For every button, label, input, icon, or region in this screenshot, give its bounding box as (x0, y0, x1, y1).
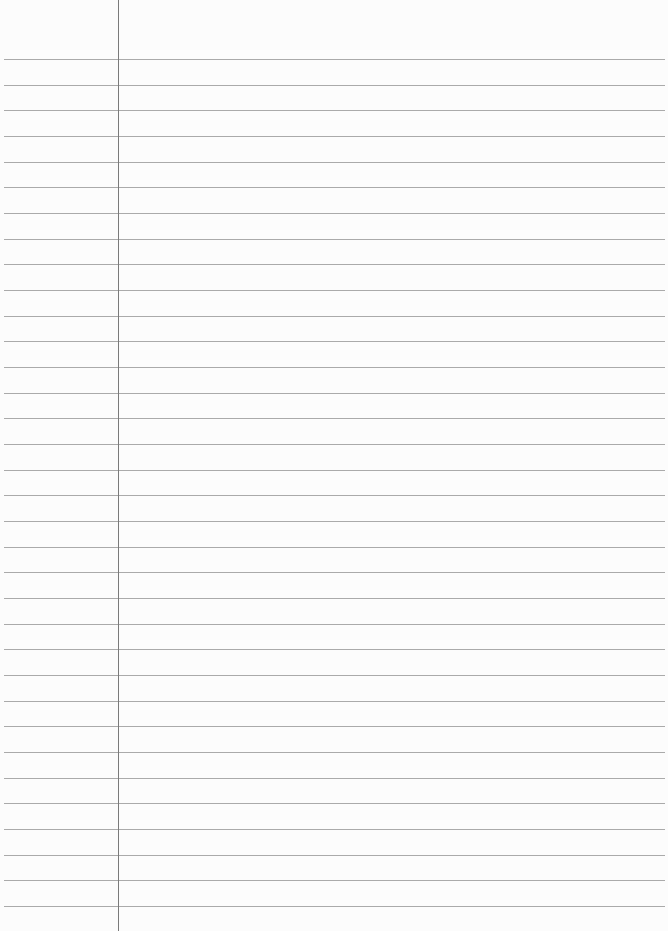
ruled-line (4, 85, 665, 86)
ruled-line (4, 367, 665, 368)
ruled-line (4, 701, 665, 702)
ruled-line (4, 675, 665, 676)
ruled-line (4, 752, 665, 753)
ruled-line (4, 547, 665, 548)
ruled-line (4, 649, 665, 650)
ruled-line (4, 906, 665, 907)
ruled-line (4, 495, 665, 496)
ruled-line (4, 213, 665, 214)
ruled-line (4, 880, 665, 881)
ruled-line (4, 521, 665, 522)
ruled-line (4, 829, 665, 830)
ruled-line (4, 572, 665, 573)
ruled-line (4, 59, 665, 60)
ruled-line (4, 162, 665, 163)
ruled-line (4, 239, 665, 240)
ruled-line (4, 316, 665, 317)
ruled-line (4, 470, 665, 471)
ruled-line (4, 136, 665, 137)
ruled-line (4, 341, 665, 342)
lined-paper-page (0, 0, 668, 931)
ruled-line (4, 444, 665, 445)
ruled-line (4, 290, 665, 291)
ruled-line (4, 187, 665, 188)
ruled-line (4, 803, 665, 804)
ruled-line (4, 624, 665, 625)
ruled-line (4, 110, 665, 111)
ruled-line (4, 778, 665, 779)
ruled-line (4, 418, 665, 419)
ruled-line (4, 393, 665, 394)
ruled-line (4, 726, 665, 727)
ruled-line (4, 598, 665, 599)
ruled-line (4, 855, 665, 856)
ruled-line (4, 264, 665, 265)
margin-line (118, 0, 119, 931)
